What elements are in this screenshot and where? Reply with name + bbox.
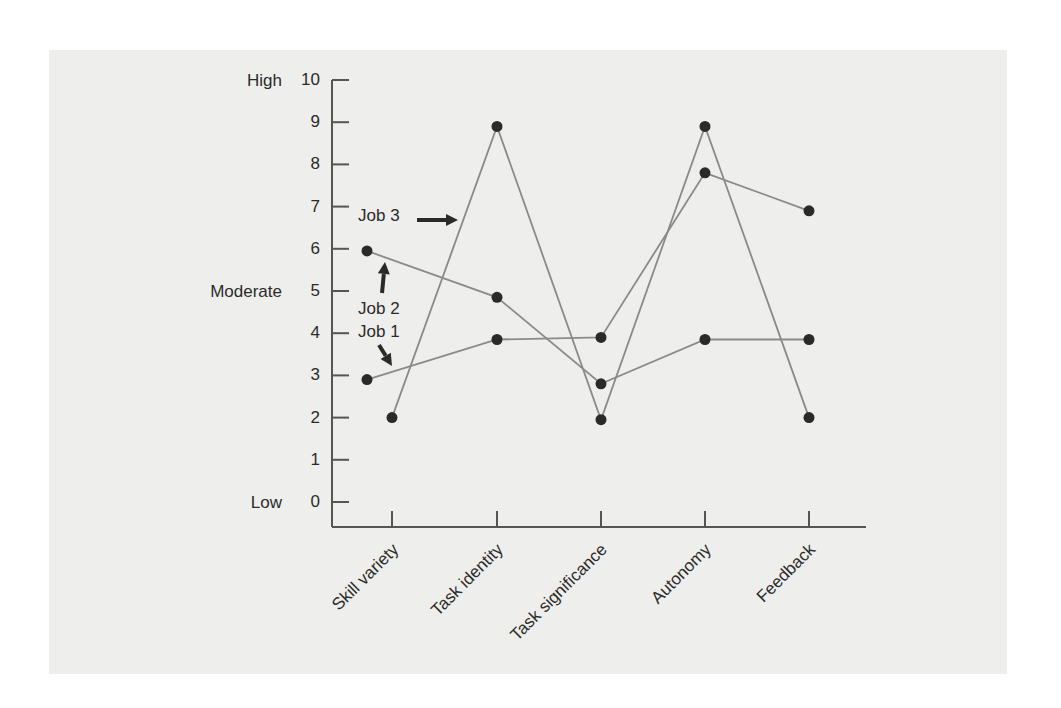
series-line-job3 <box>392 126 809 419</box>
data-point <box>700 121 711 132</box>
y-tick-label: 5 <box>290 281 320 301</box>
data-point <box>596 378 607 389</box>
y-tick-label: 7 <box>290 197 320 217</box>
data-point <box>492 334 503 345</box>
y-level-low: Low <box>162 493 282 513</box>
data-point <box>804 334 815 345</box>
data-point <box>362 374 373 385</box>
data-point <box>700 334 711 345</box>
job2-arrow-icon-shaft <box>382 274 384 293</box>
line-chart <box>0 0 1061 708</box>
y-tick-label: 0 <box>290 492 320 512</box>
job3-arrow-icon-head <box>446 214 458 226</box>
data-point <box>362 245 373 256</box>
series-line-job1 <box>367 173 809 380</box>
y-tick-label: 3 <box>290 365 320 385</box>
y-level-high: High <box>162 71 282 91</box>
y-tick-label: 9 <box>290 112 320 132</box>
series-lines <box>367 126 809 419</box>
y-tick-label: 6 <box>290 239 320 259</box>
data-point <box>387 412 398 423</box>
data-point <box>804 205 815 216</box>
job2-arrow-icon-head <box>378 262 390 275</box>
data-point <box>492 292 503 303</box>
job3-annotation: Job 3 <box>358 206 400 226</box>
y-tick-label: 8 <box>290 154 320 174</box>
data-point <box>596 414 607 425</box>
job1-arrow-icon-shaft <box>379 345 386 356</box>
data-point <box>804 412 815 423</box>
job1-annotation: Job 1 <box>358 322 400 342</box>
data-point <box>700 167 711 178</box>
series-line-job2 <box>367 251 809 384</box>
y-level-moderate: Moderate <box>162 282 282 302</box>
y-tick-label: 10 <box>290 70 320 90</box>
axes <box>332 80 866 527</box>
data-point <box>596 332 607 343</box>
job2-annotation: Job 2 <box>358 299 400 319</box>
y-tick-label: 1 <box>290 450 320 470</box>
y-tick-label: 2 <box>290 408 320 428</box>
y-tick-label: 4 <box>290 323 320 343</box>
data-point <box>492 121 503 132</box>
